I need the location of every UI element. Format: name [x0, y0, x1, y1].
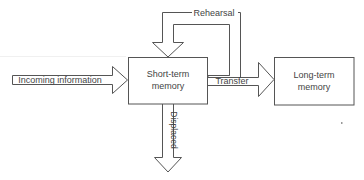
transfer-label: Transfer: [215, 76, 248, 86]
displaced-arrow: Displaced: [155, 104, 182, 172]
short-term-memory-label-line2: memory: [152, 81, 185, 91]
long-term-memory-label-line2: memory: [298, 82, 331, 92]
short-term-memory-box: Short-term memory: [129, 58, 208, 105]
displaced-label: Displaced: [169, 111, 179, 149]
memory-diagram: Rehearsal Incoming information Transfer …: [0, 0, 364, 180]
long-term-memory-label-line1: Long-term: [293, 70, 334, 80]
scan-speck: [341, 122, 343, 124]
long-term-memory-box: Long-term memory: [275, 58, 355, 106]
incoming-information-arrow: Incoming information: [13, 67, 128, 94]
rehearsal-label: Rehearsal: [193, 8, 234, 18]
short-term-memory-label-line1: Short-term: [147, 69, 190, 79]
incoming-information-label: Incoming information: [18, 75, 102, 85]
